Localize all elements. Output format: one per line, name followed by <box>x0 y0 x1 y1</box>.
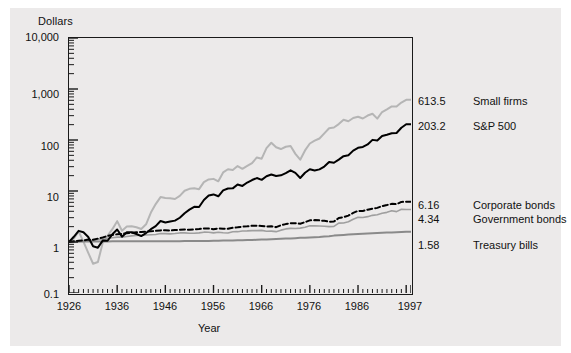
annotation-value-treasury-bills: 1.58 <box>418 239 460 251</box>
annotation-label-treasury-bills: Treasury bills <box>473 239 538 251</box>
annotation-label-sp500: S&P 500 <box>473 120 516 132</box>
annotation-label-corporate-bonds: Corporate bonds <box>473 199 555 211</box>
series-annotations: 613.5 Small firms 203.2 S&P 500 6.16 Cor… <box>0 0 571 353</box>
annotation-label-small-firms: Small firms <box>473 95 527 107</box>
annotation-value-government-bonds: 4.34 <box>418 213 460 225</box>
annotation-value-small-firms: 613.5 <box>418 95 460 107</box>
annotation-value-sp500: 203.2 <box>418 120 460 132</box>
chart-figure: Dollars 10,000 1,000 100 10 1 0.1 1926 1… <box>0 0 571 353</box>
annotation-label-government-bonds: Government bonds <box>473 213 567 225</box>
annotation-value-corporate-bonds: 6.16 <box>418 199 460 211</box>
